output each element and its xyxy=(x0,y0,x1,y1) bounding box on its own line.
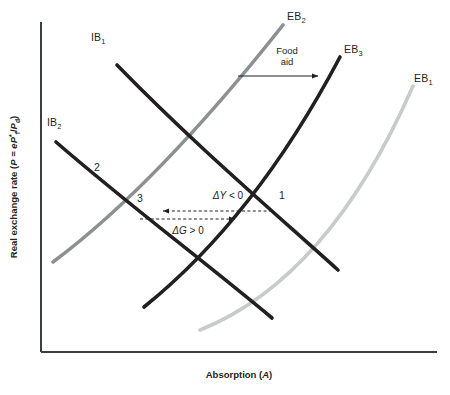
curve-label-eb3-base: EB xyxy=(344,43,358,55)
y-axis-title-eq: = xyxy=(8,149,19,160)
curve-label-eb2-base: EB xyxy=(287,10,301,22)
x-axis-title-main: Absorption ( xyxy=(206,369,263,380)
curve-label-eb1: EB1 xyxy=(414,72,433,87)
curve-label-eb3: EB3 xyxy=(344,43,363,58)
curve-label-ib2: IB2 xyxy=(47,116,62,131)
axis-titles-group: Absorption (A) Real exchange rate (P = e… xyxy=(8,116,273,380)
curve-label-eb2: EB2 xyxy=(287,10,306,25)
curve-label-ib1-sub: 1 xyxy=(101,37,105,46)
point-label-2: 2 xyxy=(94,161,100,173)
x-axis-title: Absorption (A) xyxy=(206,369,273,380)
curve-label-ib1: IB1 xyxy=(91,31,106,46)
delta-g-relation: > 0 xyxy=(187,225,204,236)
curve-label-ib2-base: IB xyxy=(47,116,57,128)
y-axis-title: Real exchange rate (P = eP*f/Pd) xyxy=(8,116,22,258)
food-aid-label-line2: aid xyxy=(281,56,294,67)
curve-label-ib2-sub: 2 xyxy=(57,122,61,131)
food-aid-label-line1: Food xyxy=(276,45,298,56)
curve-eb2 xyxy=(53,25,283,262)
food-aid-annotation: Food aid xyxy=(238,45,318,76)
curve-label-eb3-sub: 3 xyxy=(358,49,362,58)
delta-y-relation: < 0 xyxy=(226,190,243,201)
curves-group xyxy=(53,25,413,330)
delta-g-label: ΔG > 0 xyxy=(171,225,204,236)
point-label-3: 3 xyxy=(137,192,143,204)
economics-diagram: EB2 EB3 EB1 IB1 IB2 1 2 3 Food aid ΔY < … xyxy=(0,0,450,395)
curve-eb1 xyxy=(200,86,413,330)
x-axis-title-close: ) xyxy=(269,369,272,380)
y-axis-title-prefix: Real exchange rate ( xyxy=(8,165,19,258)
curve-label-eb1-base: EB xyxy=(414,72,428,84)
y-axis-title-close: ) xyxy=(8,116,19,119)
curve-label-eb2-sub: 2 xyxy=(301,16,305,25)
x-axis-title-variable: A xyxy=(261,369,269,380)
curve-labels-group: EB2 EB3 EB1 IB1 IB2 xyxy=(47,10,433,131)
curve-label-eb1-sub: 1 xyxy=(428,78,432,87)
curve-ib1 xyxy=(117,65,338,270)
curve-label-ib1-base: IB xyxy=(91,31,101,43)
axes-group xyxy=(41,22,437,352)
point-label-1: 1 xyxy=(279,189,285,201)
absorption-exchange-rate-plot: EB2 EB3 EB1 IB1 IB2 1 2 3 Food aid ΔY < … xyxy=(0,0,450,395)
delta-y-label: ΔY < 0 xyxy=(212,190,244,201)
